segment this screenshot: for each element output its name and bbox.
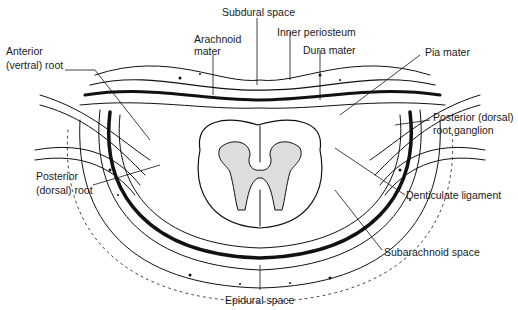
label-anterior-root-2: (vertral) root: [6, 59, 63, 71]
label-denticulate-ligament: Denticulate ligament: [406, 189, 501, 201]
label-arachnoid-mater-1: Arachnoid: [194, 33, 241, 45]
label-subarachnoid-space: Subarachnoid space: [384, 246, 480, 258]
label-dura-mater: Dura mater: [303, 44, 356, 56]
label-posterior-ganglion-1: Posterior (dorsal): [433, 111, 514, 123]
label-epidural-space: Epidural space: [225, 294, 294, 306]
label-posterior-ganglion-2: root ganglion: [433, 124, 494, 136]
label-posterior-root-2: (dorsal) root: [36, 184, 93, 196]
label-subdural-space: Subdural space: [222, 6, 295, 18]
label-posterior-root-1: Posterior: [36, 170, 78, 182]
label-arachnoid-mater-2: mater: [194, 45, 221, 57]
label-anterior-root-1: Anterior: [6, 45, 43, 57]
label-inner-periosteum: Inner periosteum: [277, 26, 356, 38]
label-pia-mater: Pia mater: [425, 46, 470, 58]
